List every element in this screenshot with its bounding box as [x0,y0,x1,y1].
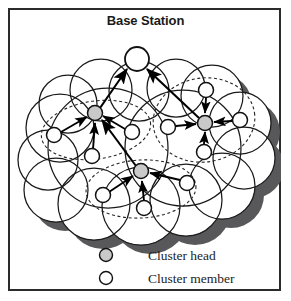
left-cluster-member-1 [47,128,62,143]
bottom-cluster-head [134,164,149,179]
bottom-cluster-member-2 [137,201,152,216]
diagram-canvas: Cluster head Cluster member [8,8,281,291]
base-station-node [125,47,149,71]
legend-item-cluster-head: Cluster head [148,248,216,263]
cluster-member-circle-icon [100,272,113,285]
bottom-cluster-member-3 [180,176,195,191]
bottom-cluster-member-1 [96,188,111,203]
right-cluster-head [198,116,213,131]
left-cluster-member-3 [125,125,140,140]
left-cluster-member-2 [85,149,100,164]
legend: Cluster head Cluster member [100,248,236,286]
legend-item-cluster-member: Cluster member [148,271,235,286]
cluster-head-circle-icon [100,249,113,262]
figure-root: Base Station [0,0,291,301]
right-cluster-member-2 [233,113,248,128]
right-cluster-link-2 [214,121,232,122]
left-cluster-head [88,106,103,121]
right-cluster-member-3 [161,120,176,135]
right-cluster-link-1 [205,98,206,113]
right-cluster-member-4 [197,145,212,160]
right-cluster-member-1 [199,83,214,98]
right-cluster-link-4 [204,132,205,144]
